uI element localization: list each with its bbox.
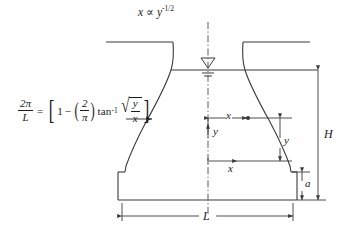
bracket-close: ] — [143, 100, 149, 122]
inner-numerator: 2 — [80, 98, 90, 112]
hydraulic-profile-figure: x∝y-1/2 — [0, 0, 347, 233]
paren-close: ) — [91, 102, 95, 119]
equals-sign: = — [33, 105, 47, 117]
lhs-numerator: 2π — [18, 98, 33, 112]
radicand-numerator: y — [131, 98, 140, 112]
label-coord-y-axis: y — [213, 126, 218, 137]
paren-open: ( — [74, 102, 78, 119]
label-base-width: L — [203, 210, 210, 222]
label-coord-x-upper: x — [226, 110, 231, 121]
label-slab-thickness: a — [305, 178, 311, 189]
profile-equation: 2π L = [ 1 − ( 2 π ) tan-1 √ y x ] — [18, 97, 151, 124]
radicand: y x — [129, 97, 142, 124]
label-height-total: H — [324, 128, 333, 140]
label-coord-x-lower: x — [228, 163, 233, 174]
right-profile-curve — [243, 42, 291, 172]
radicand-fraction: y x — [131, 98, 140, 124]
radical-sign: √ — [121, 98, 129, 125]
lhs-fraction: 2π L — [18, 98, 33, 124]
minus-sign: − — [63, 105, 73, 117]
radicand-denominator: x — [131, 112, 140, 125]
arctan-label: tan — [96, 105, 111, 117]
bracket-open: [ — [49, 100, 55, 122]
lhs-denominator: L — [20, 111, 30, 124]
label-coord-y-depth: y — [284, 135, 289, 146]
square-root: √ y x — [118, 97, 142, 124]
inner-fraction: 2 π — [80, 98, 90, 124]
inner-denominator: π — [80, 111, 90, 124]
